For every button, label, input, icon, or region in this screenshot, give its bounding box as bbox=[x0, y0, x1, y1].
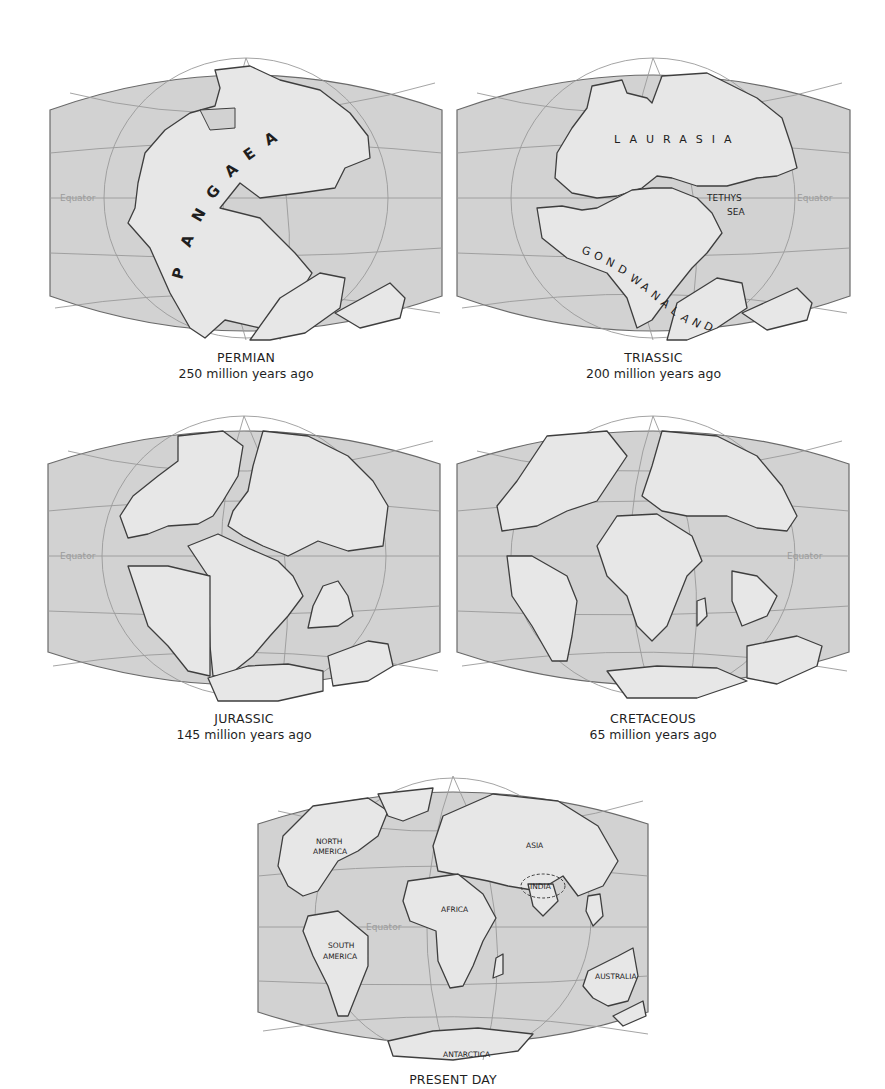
label-india: INDIA bbox=[530, 882, 552, 891]
label-america-south: AMERICA bbox=[323, 952, 358, 961]
period-title: PRESENT DAY bbox=[258, 1072, 648, 1088]
caption-cretaceous: CRETACEOUS 65 million years ago bbox=[457, 711, 849, 743]
equator-label: Equator bbox=[787, 551, 823, 561]
panel-permian: Equator P A N G A E A PERMIAN 250 millio… bbox=[50, 58, 442, 403]
equator-label: Equator bbox=[60, 551, 96, 561]
equator-label: Equator bbox=[797, 193, 833, 203]
equator-label: Equator bbox=[366, 922, 402, 932]
panel-present-day: Equator NORTH AMERICA ASIA INDIA AFRICA … bbox=[258, 776, 648, 1089]
map-permian: Equator P A N G A E A bbox=[50, 58, 442, 340]
panel-jurassic: Equator JURASSIC 145 million years ago bbox=[48, 416, 440, 761]
caption-jurassic: JURASSIC 145 million years ago bbox=[48, 711, 440, 743]
label-asia: ASIA bbox=[526, 841, 544, 850]
period-title: JURASSIC bbox=[48, 711, 440, 727]
label-africa: AFRICA bbox=[441, 905, 469, 914]
label-north: NORTH bbox=[316, 837, 342, 846]
map-triassic: Equator LAURASIA TETHYS SEA G O N D W A … bbox=[457, 58, 850, 340]
caption-triassic: TRIASSIC 200 million years ago bbox=[457, 350, 850, 382]
label-south: SOUTH bbox=[328, 941, 354, 950]
period-title: CRETACEOUS bbox=[457, 711, 849, 727]
label-antarctica: ANTARCTICA bbox=[443, 1050, 491, 1059]
map-jurassic: Equator bbox=[48, 416, 440, 698]
equator-label: Equator bbox=[60, 193, 96, 203]
label-australia: AUSTRALIA bbox=[595, 972, 637, 981]
map-cretaceous: Equator bbox=[457, 416, 849, 698]
period-age: 250 million years ago bbox=[50, 366, 442, 382]
panel-cretaceous: Equator CRETACEOUS 65 million years ago bbox=[457, 416, 849, 761]
label-sea: SEA bbox=[727, 207, 745, 217]
label-laurasia: LAURASIA bbox=[614, 133, 740, 146]
label-tethys: TETHYS bbox=[706, 193, 742, 203]
map-present-day: Equator NORTH AMERICA ASIA INDIA AFRICA … bbox=[258, 776, 648, 1060]
period-age: 65 million years ago bbox=[457, 727, 849, 743]
caption-present-day: PRESENT DAY bbox=[258, 1072, 648, 1088]
landmass-australia bbox=[747, 636, 822, 684]
period-age: 200 million years ago bbox=[457, 366, 850, 382]
caption-permian: PERMIAN 250 million years ago bbox=[50, 350, 442, 382]
period-age: 145 million years ago bbox=[48, 727, 440, 743]
label-america-north: AMERICA bbox=[313, 847, 348, 856]
period-title: TRIASSIC bbox=[457, 350, 850, 366]
period-title: PERMIAN bbox=[50, 350, 442, 366]
panel-triassic: Equator LAURASIA TETHYS SEA G O N D W A … bbox=[457, 58, 850, 403]
